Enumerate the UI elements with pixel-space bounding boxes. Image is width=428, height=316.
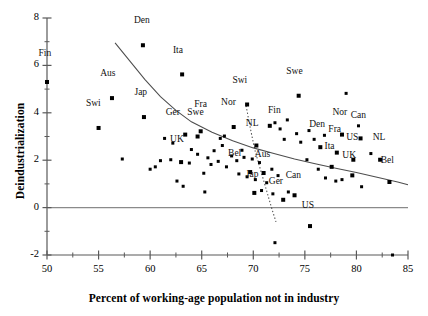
data-point-label: Nor — [217, 97, 239, 107]
data-point-marker — [268, 124, 272, 128]
data-point-marker — [295, 132, 298, 135]
data-point-marker — [305, 158, 308, 161]
data-point-marker — [190, 148, 193, 151]
data-point-marker — [237, 172, 240, 175]
data-point-label: Ger — [162, 107, 184, 117]
data-point-marker — [297, 94, 301, 98]
data-point-marker — [313, 138, 316, 141]
data-point-label: Den — [131, 15, 153, 25]
data-point-marker — [286, 118, 289, 121]
data-point-marker — [391, 254, 394, 257]
y-tick-label: 8 — [13, 11, 39, 22]
data-point-label: Ita — [167, 45, 189, 55]
data-point-marker — [213, 149, 216, 152]
data-point-marker — [196, 135, 200, 139]
data-point-marker — [270, 168, 273, 171]
data-point-marker — [307, 129, 310, 132]
data-point-marker — [225, 165, 228, 168]
data-point-marker — [203, 190, 206, 193]
data-point-marker — [357, 124, 360, 127]
data-point-marker — [199, 129, 203, 133]
data-point-marker — [175, 180, 178, 183]
x-tick-label: 50 — [31, 263, 63, 274]
data-point-marker — [219, 137, 222, 140]
data-point-marker — [202, 172, 205, 175]
data-point-marker — [273, 121, 276, 124]
data-point-marker — [97, 126, 101, 130]
scatter-plot-figure: Deindustrialization Percent of working-a… — [0, 0, 428, 316]
data-point-marker — [323, 134, 326, 137]
data-point-marker — [110, 96, 114, 100]
data-point-label: Jap — [241, 169, 263, 179]
data-point-marker — [299, 141, 302, 144]
y-tick-label: 6 — [13, 58, 39, 69]
data-point-marker — [235, 159, 238, 162]
data-point-marker — [252, 191, 256, 195]
data-point-label: US — [341, 132, 363, 142]
y-tick-label: -2 — [13, 248, 39, 259]
data-point-marker — [206, 156, 209, 159]
data-point-label: Fin — [34, 48, 56, 58]
data-point-marker — [188, 162, 191, 165]
data-point-label: Fin — [263, 105, 285, 115]
y-tick-label: 0 — [13, 201, 39, 212]
data-point-marker — [221, 144, 224, 147]
x-axis-title: Percent of working-age population not in… — [0, 292, 428, 304]
data-point-marker — [387, 180, 391, 184]
data-point-marker — [210, 163, 213, 166]
data-point-label: NL — [241, 118, 263, 128]
data-point-marker — [330, 165, 334, 169]
data-point-label: NL — [368, 132, 390, 142]
data-point-marker — [283, 138, 286, 141]
data-point-label: Bel — [224, 148, 246, 158]
data-point-marker — [324, 176, 327, 179]
data-point-marker — [223, 135, 226, 138]
data-point-marker — [260, 189, 263, 192]
data-point-label: UK — [166, 134, 188, 144]
data-point-marker — [345, 92, 348, 95]
data-point-marker — [179, 160, 183, 164]
data-point-marker — [254, 144, 258, 148]
data-point-marker — [149, 168, 152, 171]
data-point-marker — [142, 115, 146, 119]
data-point-label: Can — [347, 110, 369, 120]
data-point-label: Bel — [376, 155, 398, 165]
data-point-marker — [317, 168, 320, 171]
x-tick-label: 75 — [289, 263, 321, 274]
data-point-marker — [154, 165, 157, 168]
data-point-marker — [308, 224, 312, 228]
data-point-marker — [169, 158, 172, 161]
data-point-label: Aus — [252, 149, 274, 159]
data-point-marker — [360, 185, 363, 188]
data-point-label: Jap — [130, 87, 152, 97]
data-point-marker — [340, 178, 343, 181]
data-point-marker — [293, 193, 297, 197]
data-point-marker — [196, 153, 199, 156]
data-point-marker — [334, 180, 337, 183]
x-tick-label: 70 — [237, 263, 269, 274]
data-point-marker — [281, 198, 285, 202]
x-tick-label: 80 — [340, 263, 372, 274]
data-point-label: Can — [282, 170, 304, 180]
data-point-marker — [258, 161, 261, 164]
y-tick-label: 4 — [13, 106, 39, 117]
data-point-marker — [287, 190, 290, 193]
x-tick-label: 60 — [134, 263, 166, 274]
data-point-marker — [350, 173, 354, 177]
x-tick-label: 85 — [392, 263, 424, 274]
data-point-marker — [271, 192, 274, 195]
data-point-label: Swi — [82, 98, 104, 108]
data-point-marker — [159, 159, 162, 162]
data-point-label: Aus — [97, 68, 119, 78]
data-point-marker — [45, 80, 49, 84]
data-point-marker — [273, 241, 276, 244]
data-point-marker — [232, 125, 236, 129]
data-point-marker — [180, 72, 184, 76]
data-point-label: UK — [338, 150, 360, 160]
data-point-label: US — [297, 200, 319, 210]
data-point-label: Fra — [190, 99, 212, 109]
x-tick-label: 55 — [83, 263, 115, 274]
y-tick-label: 2 — [13, 153, 39, 164]
data-point-marker — [245, 103, 249, 107]
data-point-label: Swi — [229, 75, 251, 85]
